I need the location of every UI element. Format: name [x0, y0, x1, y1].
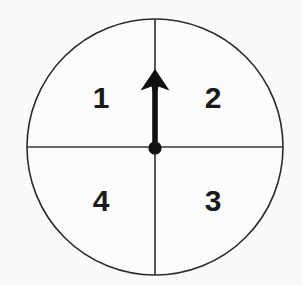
sector-label-2: 2 — [205, 81, 222, 114]
spinner-diagram: 1 2 3 4 — [0, 0, 302, 285]
sector-label-4: 4 — [93, 184, 110, 217]
spinner-hub-dot — [148, 141, 161, 154]
sector-label-3: 3 — [205, 184, 222, 217]
sector-label-1: 1 — [93, 81, 110, 114]
spinner-figure: 1 2 3 4 — [0, 0, 302, 285]
